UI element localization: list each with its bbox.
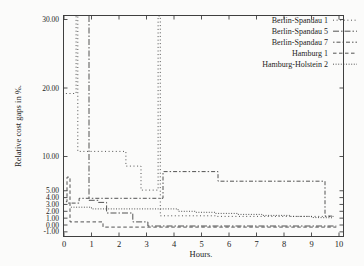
series-line-2 bbox=[89, 16, 336, 226]
y-tick-label: 10.00 bbox=[42, 152, 59, 161]
legend-entry-label: Berlin-Spandau 1 bbox=[272, 16, 328, 25]
x-tick-label: 10 bbox=[335, 239, 344, 249]
x-axis-title: Hours. bbox=[190, 249, 213, 259]
x-tick-label: 5 bbox=[199, 239, 203, 249]
y-tick-label: 30.00 bbox=[42, 15, 59, 24]
x-tick-label: 7 bbox=[254, 239, 258, 249]
x-tick-label: 3 bbox=[144, 239, 148, 249]
x-tick-label: 6 bbox=[227, 239, 231, 249]
legend-entry-label: Berlin-Spandau 5 bbox=[272, 27, 328, 36]
y-tick-label: 20.00 bbox=[42, 84, 59, 93]
y-tick-label: -1.00 bbox=[43, 227, 59, 236]
y-axis-title: Relative cost gaps in %. bbox=[13, 85, 23, 167]
plot-area: 01234567891030.0020.0010.005.004.003.002… bbox=[0, 0, 364, 266]
x-tick-label: 1 bbox=[89, 239, 93, 249]
x-tick-label: 0 bbox=[62, 239, 66, 249]
x-tick-label: 4 bbox=[172, 239, 177, 249]
legend-entry-label: Hamburg 1 bbox=[292, 49, 328, 58]
x-tick-label: 8 bbox=[282, 239, 286, 249]
chart-figure: 01234567891030.0020.0010.005.004.003.002… bbox=[0, 0, 364, 266]
legend-entry-label: Berlin-Spandau 7 bbox=[272, 38, 328, 47]
legend: Berlin-Spandau 1Berlin-Spandau 5Berlin-S… bbox=[262, 16, 357, 69]
legend-entry-label: Hamburg-Holstein 2 bbox=[262, 60, 328, 69]
series-line-5 bbox=[71, 207, 334, 218]
series-group bbox=[66, 16, 336, 227]
x-tick-label: 9 bbox=[309, 239, 313, 249]
series-line-3 bbox=[68, 172, 333, 217]
x-tick-label: 2 bbox=[117, 239, 121, 249]
